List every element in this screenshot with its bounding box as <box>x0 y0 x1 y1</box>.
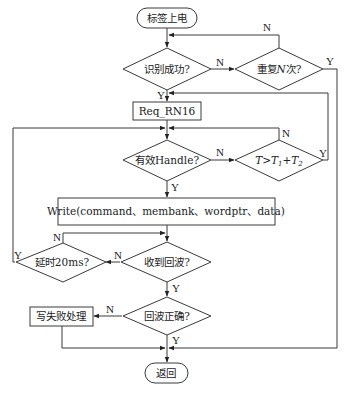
write-label: Write(command、membank、wordptr、data) <box>47 205 285 217</box>
label-repeat-yes: Y <box>326 55 334 67</box>
label-echo-yes: Y <box>172 282 180 294</box>
node-timeout: T>T1+T2 <box>235 140 323 181</box>
label-handle-yes: Y <box>171 181 179 193</box>
node-repeat: 重复N次? <box>235 48 323 90</box>
label-handle-no: N <box>216 146 224 158</box>
node-handle: 有效Handle? <box>123 140 211 181</box>
identify-label: 识别成功? <box>144 63 190 75</box>
label-timeout-yes: Y <box>319 147 327 159</box>
repeat-label: 重复N次? <box>257 63 302 75</box>
handle-label: 有效Handle? <box>135 154 199 166</box>
label-verify-yes: Y <box>172 334 180 346</box>
start-label: 标签上电 <box>147 12 188 24</box>
node-identify: 识别成功? <box>123 48 211 90</box>
edge-delay-handle <box>13 128 165 262</box>
node-end: 返回 <box>145 363 188 383</box>
verify-label: 回波正确? <box>144 310 190 322</box>
label-identify-yes: Y <box>157 89 165 101</box>
node-start: 标签上电 <box>137 8 197 28</box>
end-label: 返回 <box>156 367 176 379</box>
node-fail: 写失败处理 <box>30 307 93 326</box>
edge-repeat-identify <box>169 35 279 48</box>
node-echo: 收到回波? <box>121 242 211 282</box>
label-echo-no: N <box>114 249 122 261</box>
echo-label: 收到回波? <box>144 256 190 268</box>
fail-label: 写失败处理 <box>36 310 87 322</box>
edge-delay-echo <box>63 233 165 243</box>
label-repeat-no: N <box>263 21 271 33</box>
label-identify-no: N <box>216 56 224 68</box>
flowchart-canvas: 标签上电 识别成功? 重复N次? Req_RN16 有效Handle? T>T1… <box>0 0 345 396</box>
node-verify: 回波正确? <box>123 297 211 335</box>
delay-label: 延时20ms? <box>35 256 90 268</box>
label-delay-yes: Y <box>14 249 22 261</box>
node-req: Req_RN16 <box>133 102 201 120</box>
edge-fail-end <box>62 326 165 348</box>
label-delay-no: N <box>53 231 61 243</box>
label-timeout-no: N <box>282 127 290 139</box>
label-verify-no: N <box>106 303 114 315</box>
edge-timeout-handle <box>169 128 279 140</box>
req-label: Req_RN16 <box>139 105 196 118</box>
node-delay: 延时20ms? <box>16 243 106 282</box>
node-write: Write(command、membank、wordptr、data) <box>47 198 285 225</box>
